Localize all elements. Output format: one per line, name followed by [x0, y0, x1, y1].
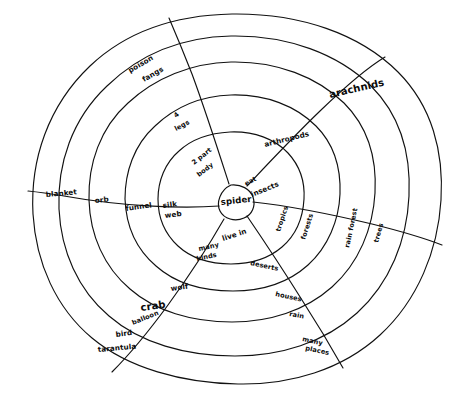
label-four-legs-word: legs: [173, 118, 191, 132]
label-trees: trees: [372, 222, 385, 243]
label-arthropods: arthropods: [263, 129, 310, 149]
label-silk: silk: [162, 199, 177, 210]
label-wolf: wolf: [170, 282, 189, 293]
label-rain: rain: [289, 310, 305, 321]
ring-2: [125, 95, 340, 291]
concept-map-canvas: spider silk web funnel orb blanket 2 par…: [0, 0, 464, 402]
label-houses: houses: [275, 290, 303, 303]
label-many-kinds-1: many: [198, 241, 221, 253]
label-bird: bird: [115, 328, 133, 339]
hub-label: spider: [220, 194, 253, 207]
spoke-class-ne: [247, 57, 385, 186]
label-rain-forest: rain forest: [343, 207, 359, 248]
label-deserts: deserts: [250, 259, 280, 273]
ring-3: [89, 62, 375, 322]
label-fangs: fangs: [141, 64, 165, 83]
label-live-in: live in: [221, 227, 248, 243]
label-tropics: tropics: [274, 205, 290, 233]
label-four-legs-number: 4: [172, 110, 181, 119]
label-orb: orb: [94, 195, 109, 205]
label-funnel: funnel: [125, 200, 152, 213]
label-arachnids: arachnids: [328, 77, 385, 100]
label-web: web: [164, 209, 182, 220]
label-many-places-2: places: [305, 344, 330, 357]
